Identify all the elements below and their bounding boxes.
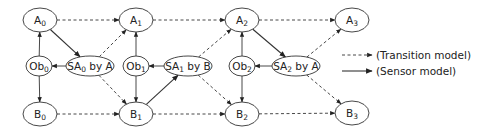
node-b3: B3 bbox=[335, 101, 369, 125]
edge-a0-to-sa0 bbox=[50, 30, 80, 57]
node-a2: A2 bbox=[225, 8, 259, 32]
node-a1: A1 bbox=[119, 8, 153, 32]
node-sa2: SA2 by A bbox=[272, 56, 320, 76]
legend-sensor-label: (Sensor model) bbox=[376, 65, 456, 77]
edge-sa0-to-a1 bbox=[99, 30, 126, 57]
node-ob0: Ob0 bbox=[26, 56, 52, 76]
node-ob2: Ob2 bbox=[229, 56, 255, 76]
node-a0: A0 bbox=[23, 8, 57, 32]
edge-a2-to-sa2 bbox=[253, 29, 286, 57]
node-label: SA1 by B bbox=[165, 60, 211, 74]
dynamic-bayes-network-diagram: A0Ob0SA0 by AB0A1Ob1SA1 by BB1A2Ob2SA2 b… bbox=[0, 0, 478, 135]
edge-sa1-to-a2 bbox=[199, 29, 232, 57]
node-b0: B0 bbox=[23, 102, 57, 126]
edge-ob0-to-b0 bbox=[39, 76, 40, 102]
node-a3: A3 bbox=[335, 8, 369, 32]
edge-b1-to-sa1 bbox=[146, 75, 178, 104]
node-ob1: Ob1 bbox=[123, 56, 149, 76]
node-b2: B2 bbox=[225, 102, 259, 126]
edge-b2-to-b3 bbox=[259, 113, 335, 114]
edge-sa2-to-b3 bbox=[307, 75, 341, 104]
node-sa0: SA0 by A bbox=[66, 56, 114, 76]
edge-sa0-to-b1 bbox=[99, 75, 127, 104]
node-sa1: SA1 by B bbox=[164, 56, 212, 76]
edge-sa1-to-b2 bbox=[198, 75, 231, 105]
legend: (Transition model) (Sensor model) bbox=[342, 49, 471, 77]
node-b1: B1 bbox=[119, 102, 153, 126]
nodes: A0Ob0SA0 by AB0A1Ob1SA1 by BB1A2Ob2SA2 b… bbox=[23, 8, 369, 126]
edge-sa2-to-a3 bbox=[307, 29, 341, 57]
edge-ob0-to-a0 bbox=[39, 32, 40, 56]
node-label: SA0 by A bbox=[67, 60, 113, 74]
legend-transition-label: (Transition model) bbox=[376, 49, 471, 61]
node-label: SA2 by A bbox=[273, 60, 319, 74]
